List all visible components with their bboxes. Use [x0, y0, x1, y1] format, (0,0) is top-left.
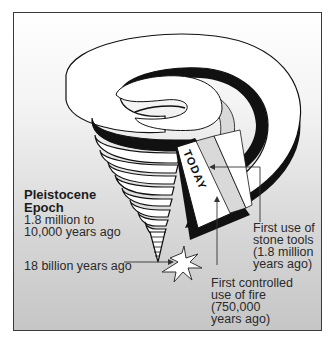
- today-wedge: TODAY: [175, 130, 252, 240]
- fire-label: First controlled use of fire (750,000 ye…: [211, 277, 293, 325]
- pleistocene-title: Pleistocene Epoch: [24, 188, 96, 214]
- stone-tools-label: First use of stone tools (1.8 million ye…: [253, 222, 315, 270]
- spiral-lower-coils: [92, 118, 190, 262]
- pleistocene-range: 1.8 million to 10,000 years ago: [24, 214, 121, 238]
- big-bang-label: 18 billion years ago: [24, 260, 132, 272]
